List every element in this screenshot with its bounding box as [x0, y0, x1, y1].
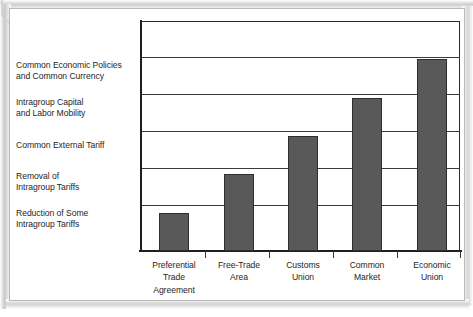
y-axis-line [140, 20, 142, 252]
screenshot-root: Common Economic Policies and Common Curr… [0, 0, 473, 317]
bar-preferential-trade-agreement[interactable] [159, 213, 189, 251]
stage-label-reduction-of-some-intragroup-tariffs: Reduction of Some Intragroup Tariffs [16, 208, 140, 231]
x-axis-tick [333, 251, 334, 258]
stage-label-line-1: Common Economic Policies [16, 60, 140, 71]
stage-label-removal-of-intragroup-tariffs: Removal of Intragroup Tariffs [16, 171, 140, 194]
stage-label-line-2: Intragroup Tariffs [16, 182, 140, 193]
x-label-line-3: Agreement [135, 284, 213, 296]
bar-economic-union[interactable] [417, 59, 447, 251]
x-label-line-1: Economic [393, 259, 471, 271]
stage-label-common-economic-policies: Common Economic Policies and Common Curr… [16, 60, 140, 83]
gridline-5 [141, 57, 460, 58]
stage-label-line-1: Common External Tariff [16, 140, 140, 151]
bar-common-market[interactable] [352, 98, 382, 251]
stage-label-line-1: Removal of [16, 171, 140, 182]
bar-chart: Common Economic Policies and Common Curr… [0, 0, 473, 317]
stage-label-line-2: and Labor Mobility [16, 108, 140, 119]
stage-label-common-external-tariff: Common External Tariff [16, 140, 140, 151]
stage-label-intragroup-capital: Intragroup Capital and Labor Mobility [16, 97, 140, 120]
x-axis-tick [397, 251, 398, 258]
x-axis-tick [460, 251, 461, 258]
x-label-economic-union: Economic Union [393, 259, 471, 284]
stage-label-line-2: and Common Currency [16, 71, 140, 82]
stage-label-line-1: Intragroup Capital [16, 97, 140, 108]
bar-customs-union[interactable] [288, 136, 318, 251]
x-axis-tick [269, 251, 270, 258]
gridline-4 [141, 94, 460, 95]
gridline-3 [141, 131, 460, 132]
stage-label-line-2: Intragroup Tariffs [16, 219, 140, 230]
x-label-line-2: Union [393, 271, 471, 283]
bar-free-trade-area[interactable] [224, 174, 254, 251]
stage-label-line-1: Reduction of Some [16, 208, 140, 219]
x-axis-tick [205, 251, 206, 258]
